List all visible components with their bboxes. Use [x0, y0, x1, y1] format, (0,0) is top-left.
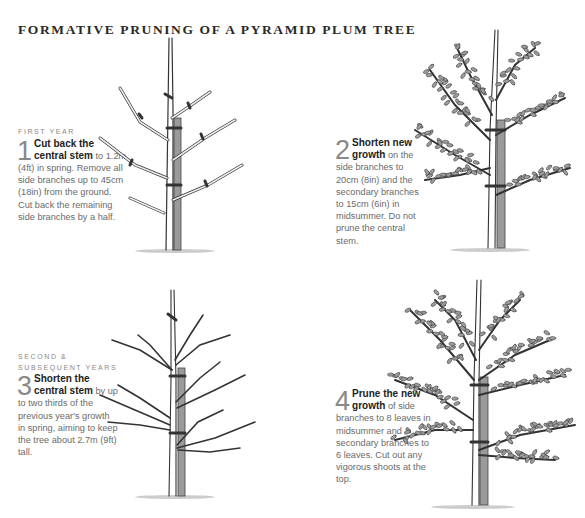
leaf	[465, 69, 472, 73]
leaf	[538, 104, 545, 108]
step-3-number: 3	[17, 375, 32, 397]
leaf	[467, 153, 474, 158]
leaf	[442, 140, 449, 144]
leaf	[473, 160, 480, 165]
leaf	[453, 155, 460, 162]
leaf	[449, 342, 456, 347]
leaf	[444, 395, 451, 401]
leaf	[504, 118, 510, 121]
leaf	[562, 169, 569, 176]
tree-year1-summer-illustration	[400, 20, 580, 260]
step-4-number: 4	[335, 390, 350, 412]
leaf	[446, 317, 453, 324]
leaf	[416, 123, 423, 130]
leaf	[414, 319, 421, 325]
leaf	[404, 307, 411, 313]
leaf	[494, 446, 500, 453]
leaf	[464, 156, 470, 163]
tree-year2-pruned-illustration	[100, 290, 270, 515]
leaf	[464, 58, 470, 65]
leaf	[453, 401, 460, 406]
leaf	[495, 440, 501, 447]
leaf	[543, 330, 550, 336]
leaf	[491, 334, 498, 341]
leaf	[509, 79, 516, 86]
leaf	[502, 358, 509, 363]
leaf	[437, 86, 444, 92]
leaf	[430, 177, 436, 184]
leaf	[534, 41, 541, 46]
leaf	[440, 94, 447, 101]
bare-tree-with-cut-marks-icon	[100, 290, 255, 499]
leaf	[436, 342, 442, 349]
leaf	[521, 379, 528, 383]
leaf	[455, 319, 462, 325]
tree-year1-pruned-illustration	[100, 30, 260, 260]
step-1-lead: Cut back the central stem	[34, 138, 94, 161]
leaf	[426, 73, 433, 77]
leaf	[546, 99, 553, 104]
leaf	[498, 364, 505, 369]
leaf	[460, 72, 466, 79]
leaf	[457, 58, 464, 62]
leaf	[440, 147, 447, 153]
leaf	[464, 120, 471, 127]
leafy-tree-icon	[387, 280, 575, 509]
leaf	[488, 95, 495, 102]
leaf	[517, 293, 524, 299]
leaf	[560, 373, 567, 378]
step-3-lead: Shorten the central stem	[34, 373, 93, 396]
leaf	[505, 300, 512, 305]
leaves	[415, 41, 571, 187]
central-stem	[166, 38, 173, 250]
leaf	[446, 357, 452, 364]
leaf	[506, 183, 513, 187]
leaf	[536, 336, 543, 340]
leaf	[513, 66, 520, 71]
leaf	[508, 59, 515, 63]
leaf	[458, 342, 465, 349]
leaf	[549, 336, 555, 340]
leafy-tree-icon	[415, 30, 571, 252]
leaf	[444, 99, 451, 106]
leaf	[457, 111, 463, 114]
leaf	[565, 368, 571, 372]
leaf	[503, 313, 510, 318]
leaf	[515, 52, 522, 57]
leaf	[532, 449, 538, 456]
leaf	[455, 314, 462, 319]
step-1-number: 1	[17, 140, 32, 162]
leaf	[451, 427, 458, 434]
leaf	[430, 301, 437, 308]
leaf	[433, 289, 440, 296]
leaf	[461, 50, 468, 55]
leaf	[503, 79, 510, 83]
leaf	[415, 133, 422, 139]
leaf	[446, 143, 453, 147]
leaf	[443, 404, 450, 410]
leaf	[456, 62, 463, 68]
leaf	[404, 429, 411, 435]
leaf	[546, 370, 553, 375]
leaf	[458, 333, 465, 337]
leaf	[521, 45, 528, 49]
leaf	[508, 357, 515, 362]
leaf	[457, 101, 464, 105]
leaf	[546, 164, 553, 171]
leaf	[458, 354, 464, 361]
leaf	[495, 454, 502, 461]
tree-year2-summer-illustration	[395, 270, 585, 515]
leaf	[457, 425, 464, 432]
leaf	[443, 427, 450, 432]
leaf	[517, 57, 524, 61]
leaf	[533, 50, 540, 57]
leaf	[551, 94, 557, 101]
leaf	[520, 426, 527, 433]
leaf	[495, 82, 502, 87]
leaf	[438, 331, 445, 337]
leaf	[511, 73, 518, 80]
leaf	[543, 449, 550, 455]
leaf	[538, 377, 545, 384]
leaf	[508, 453, 515, 457]
bare-tree-with-cut-marks-icon	[100, 38, 242, 253]
